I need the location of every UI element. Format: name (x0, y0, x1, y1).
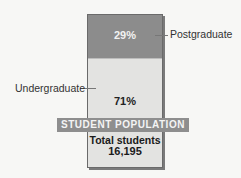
postgraduate-percent: 29% (88, 29, 162, 41)
undergraduate-label: Undergraduate (15, 82, 85, 94)
total-students-value: 16,195 (87, 145, 163, 157)
undergraduate-percent: 71% (88, 95, 162, 107)
postgraduate-label: Postgraduate (170, 28, 232, 40)
chart-title-banner: STUDENT POPULATION (57, 118, 189, 132)
postgraduate-leader-line (155, 35, 168, 36)
